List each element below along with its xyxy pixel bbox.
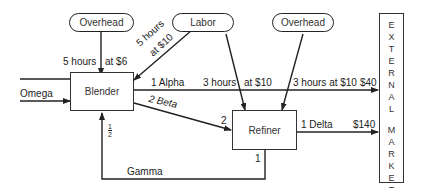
refiner-node: Refiner	[232, 110, 297, 150]
external-market-node: E X T E R N A L M A R K E T	[379, 13, 404, 183]
alpha-labor-rate-label: at $10	[244, 77, 272, 88]
market-letter: T	[380, 185, 403, 188]
market-letter: T	[380, 44, 403, 54]
market-letter: N	[380, 80, 403, 90]
overhead-rate-label: at $6	[105, 56, 127, 67]
alpha-labor-hours-label: 3 hours	[203, 77, 236, 88]
omega-label: Omega	[20, 88, 53, 99]
market-letter: L	[380, 104, 403, 114]
gamma-qty-label: 1	[255, 153, 261, 164]
overhead-node-left: Overhead	[69, 13, 134, 32]
market-letter: E	[380, 20, 403, 30]
market-letter: E	[380, 56, 403, 66]
alpha-price-label: $40	[360, 77, 377, 88]
fraction-numerator: 1	[108, 123, 112, 131]
alpha-overhead-label: 3 hours at $10	[293, 77, 357, 88]
alpha-label: 1 Alpha	[151, 77, 184, 88]
half-fraction-label: 1 2	[108, 123, 112, 138]
market-letter: K	[380, 161, 403, 171]
fraction-denominator: 2	[108, 131, 112, 138]
market-letter: R	[380, 68, 403, 78]
labor-node: Labor	[172, 13, 234, 32]
market-letter: M	[380, 125, 403, 135]
delta-price-label: $140	[353, 119, 375, 130]
market-letter: E	[380, 173, 403, 183]
overhead-node-right: Overhead	[272, 13, 334, 32]
market-letter: R	[380, 149, 403, 159]
market-letter: A	[380, 92, 403, 102]
gamma-label: Gamma	[127, 166, 163, 177]
market-letter: X	[380, 32, 403, 42]
beta-qty-label: 2	[221, 115, 227, 126]
delta-label: 1 Delta	[301, 119, 333, 130]
blender-node: Blender	[70, 72, 134, 111]
market-letter: A	[380, 137, 403, 147]
overhead-hours-label: 5 hours	[63, 56, 96, 67]
